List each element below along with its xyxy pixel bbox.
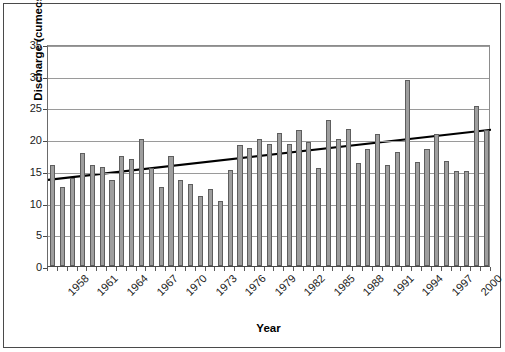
bar (287, 144, 292, 266)
chart-figure: Discharge (cumecs) 05101520253035 195819… (0, 0, 505, 352)
bar (60, 187, 65, 266)
bar (208, 189, 213, 266)
bar (100, 167, 105, 266)
x-axis-tick-mark (214, 267, 215, 271)
x-axis-tick-mark (382, 267, 383, 271)
x-axis-tick-mark (342, 267, 343, 271)
y-axis-tick-label: 5 (36, 230, 42, 240)
bar (375, 134, 380, 266)
x-axis-tick-mark (451, 267, 452, 271)
bar (356, 163, 361, 266)
x-axis-tick-mark (67, 267, 68, 271)
x-axis-tick-label: 1979 (272, 272, 298, 298)
bar (424, 149, 429, 266)
bar (178, 180, 183, 266)
x-axis-tick-mark (234, 267, 235, 271)
x-axis-tick-mark (224, 267, 225, 271)
bar (277, 133, 282, 266)
x-axis-tick-mark (283, 267, 284, 271)
bar (159, 187, 164, 266)
x-axis-tick-mark (136, 267, 137, 271)
y-axis-tick-label: 35 (30, 40, 42, 50)
x-axis-tick-label: 1958 (65, 272, 91, 298)
x-axis-tick-mark (145, 267, 146, 271)
bar (70, 178, 75, 266)
y-axis-tick-mark (43, 236, 47, 237)
x-axis-tick-label: 1997 (449, 272, 475, 298)
x-axis-tick-mark (47, 267, 48, 271)
bar (306, 142, 311, 266)
bar (316, 168, 321, 266)
x-axis-tick-mark (195, 267, 196, 271)
bar (129, 159, 134, 266)
x-axis-tick-mark (185, 267, 186, 271)
x-axis-tick-mark (293, 267, 294, 271)
x-axis-tick-mark (372, 267, 373, 271)
x-axis-tick-label: 1970 (183, 272, 209, 298)
x-axis-tick-label: 1985 (331, 272, 357, 298)
x-axis-tick-mark (264, 267, 265, 271)
y-axis-tick-label: 25 (30, 103, 42, 113)
y-axis-tick-mark (43, 173, 47, 174)
x-axis-tick-mark (392, 267, 393, 271)
bar (474, 106, 479, 266)
bar (444, 161, 449, 266)
x-axis-tick-mark (77, 267, 78, 271)
x-axis-tick-mark (254, 267, 255, 271)
y-axis-tick-label: 10 (30, 199, 42, 209)
x-axis-tick-label: 1973 (213, 272, 239, 298)
y-axis-tick-mark (43, 78, 47, 79)
bar (484, 130, 489, 266)
x-axis-tick-mark (313, 267, 314, 271)
bar (415, 162, 420, 266)
bar (228, 170, 233, 266)
bar (326, 120, 331, 266)
bar (198, 196, 203, 266)
bar (267, 144, 272, 266)
x-axis-tick-mark (401, 267, 402, 271)
x-axis-tick-label: 1988 (360, 272, 386, 298)
y-axis-tick-label: 0 (36, 262, 42, 272)
x-axis-tick-mark (116, 267, 117, 271)
plot-area (47, 45, 490, 267)
x-axis-tick-mark (323, 267, 324, 271)
bar (405, 80, 410, 266)
bar (454, 171, 459, 266)
x-axis-tick-label: 1994 (419, 272, 445, 298)
bar (237, 145, 242, 266)
bar (336, 139, 341, 266)
gridline (48, 141, 489, 142)
x-axis-tick-label: 1961 (95, 272, 121, 298)
x-axis-title: Year (47, 322, 490, 334)
y-axis-tick-mark (43, 205, 47, 206)
bar (434, 134, 439, 266)
y-axis-tick-label: 20 (30, 135, 42, 145)
x-axis-tick-labels: 1958196119641967197019731976197919821985… (47, 272, 490, 312)
bar (296, 130, 301, 266)
y-axis-tick-labels: 05101520253035 (18, 45, 42, 267)
x-axis-tick-mark (332, 267, 333, 271)
x-axis-tick-label: 1991 (390, 272, 416, 298)
x-axis-tick-mark (205, 267, 206, 271)
x-axis-tick-label: 1967 (154, 272, 180, 298)
y-axis-tick-mark (43, 109, 47, 110)
bar (139, 139, 144, 266)
y-axis-tick-mark (43, 46, 47, 47)
bar (90, 165, 95, 266)
bar (257, 139, 262, 266)
bar (385, 165, 390, 266)
x-axis-tick-label: 1964 (124, 272, 150, 298)
x-axis-tick-mark (470, 267, 471, 271)
x-axis-tick-mark (362, 267, 363, 271)
bar (346, 129, 351, 266)
x-axis-tick-mark (411, 267, 412, 271)
y-axis-tick-mark (43, 141, 47, 142)
x-axis-tick-mark (86, 267, 87, 271)
bar (50, 165, 55, 266)
bar (218, 201, 223, 266)
bar (168, 156, 173, 266)
x-axis-tick-mark (441, 267, 442, 271)
x-axis-tick-mark (460, 267, 461, 271)
x-axis-tick-mark (106, 267, 107, 271)
x-axis-tick-mark (96, 267, 97, 271)
